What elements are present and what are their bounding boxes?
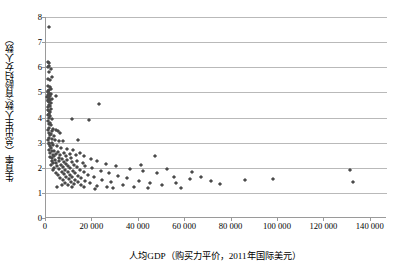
y-tick-mark — [42, 42, 45, 43]
data-point — [65, 147, 69, 151]
data-point — [104, 162, 108, 166]
data-point — [60, 183, 64, 187]
data-point — [178, 186, 182, 190]
x-tick-mark — [277, 218, 278, 221]
y-tick-mark — [42, 17, 45, 18]
data-point — [55, 184, 59, 188]
y-tick-mark — [42, 193, 45, 194]
data-point — [132, 184, 136, 188]
data-point — [155, 171, 159, 175]
data-point — [54, 94, 58, 98]
data-point — [69, 117, 73, 121]
data-point — [199, 175, 203, 179]
data-point — [271, 177, 275, 181]
data-point — [87, 118, 91, 122]
data-point — [125, 176, 129, 180]
y-tick-mark — [42, 92, 45, 93]
data-point — [139, 163, 143, 167]
data-point — [105, 184, 109, 188]
data-point — [74, 153, 78, 157]
data-point — [160, 183, 164, 187]
data-point — [91, 175, 95, 179]
data-point — [188, 177, 192, 181]
y-tick-mark — [42, 168, 45, 169]
data-point — [111, 186, 115, 190]
data-point — [127, 167, 131, 171]
data-point — [351, 179, 355, 183]
y-tick-label: 5 — [22, 87, 42, 97]
gridline — [46, 193, 387, 194]
x-tick-mark — [138, 218, 139, 221]
x-tick-label: 40 000 — [126, 221, 150, 231]
y-tick-mark — [42, 118, 45, 119]
data-point — [141, 169, 145, 173]
x-tick-mark — [184, 218, 185, 221]
data-point — [71, 148, 75, 152]
gridline — [46, 42, 387, 43]
y-tick-label: 7 — [22, 37, 42, 47]
x-tick-label: 60 000 — [172, 221, 196, 231]
fertility-vs-gdp-scatter-chart: 生育率（总出生人数/育龄妇女人数） 012345678 020 00040 00… — [0, 0, 413, 270]
data-point — [120, 183, 124, 187]
plot-area — [45, 17, 386, 218]
data-point — [243, 178, 247, 182]
x-tick-mark — [370, 218, 371, 221]
y-axis-title: 生育率（总出生人数/育龄妇女人数） — [2, 0, 20, 218]
x-tick-mark — [231, 218, 232, 221]
data-point — [47, 25, 51, 29]
y-tick-mark — [42, 143, 45, 144]
y-tick-label: 0 — [22, 213, 42, 223]
data-point — [116, 174, 120, 178]
x-tick-label: 100 000 — [263, 221, 291, 231]
data-point — [89, 157, 93, 161]
data-point — [190, 169, 194, 173]
data-point — [97, 102, 101, 106]
data-point — [209, 179, 213, 183]
x-tick-mark — [91, 218, 92, 221]
gridline — [46, 168, 387, 169]
data-point — [153, 154, 157, 158]
x-tick-label: 0 — [43, 221, 47, 231]
x-axis-title: 人均GDP（购买力平价，2011年国际美元） — [45, 248, 385, 262]
y-tick-label: 8 — [22, 12, 42, 22]
y-tick-label: 2 — [22, 163, 42, 173]
data-point — [81, 170, 85, 174]
y-tick-label: 3 — [22, 138, 42, 148]
gridline — [46, 92, 387, 93]
data-point — [109, 180, 113, 184]
x-tick-label: 80 000 — [219, 221, 243, 231]
data-point — [58, 130, 62, 134]
gridline — [46, 118, 387, 119]
data-point — [76, 138, 80, 142]
y-tick-label: 4 — [22, 113, 42, 123]
y-tick-label: 6 — [22, 62, 42, 72]
x-tick-mark — [45, 218, 46, 221]
data-point — [69, 185, 73, 189]
data-point — [59, 146, 63, 150]
data-point — [93, 187, 97, 191]
x-tick-mark — [323, 218, 324, 221]
gridline — [46, 143, 387, 144]
data-point — [74, 159, 78, 163]
data-point — [86, 173, 90, 177]
data-point — [82, 154, 86, 158]
gridline — [46, 17, 387, 18]
data-point — [95, 159, 99, 163]
y-tick-label: 1 — [22, 188, 42, 198]
data-point — [98, 169, 102, 173]
data-point — [137, 179, 141, 183]
data-point — [88, 181, 92, 185]
data-point — [148, 181, 152, 185]
x-tick-label: 140 000 — [356, 221, 384, 231]
x-tick-label: 120 000 — [309, 221, 337, 231]
gridline — [46, 67, 387, 68]
data-point — [174, 181, 178, 185]
data-point — [165, 167, 169, 171]
data-point — [218, 182, 222, 186]
data-point — [82, 184, 86, 188]
data-point — [107, 171, 111, 175]
y-axis-tick-labels: 012345678 — [20, 17, 42, 218]
x-tick-label: 20 000 — [80, 221, 104, 231]
data-point — [100, 178, 104, 182]
y-tick-mark — [42, 67, 45, 68]
